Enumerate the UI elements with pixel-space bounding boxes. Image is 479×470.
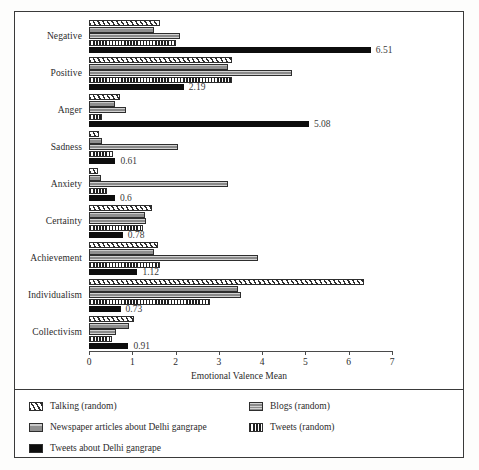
- bar-group: Collectivism0.91: [89, 316, 392, 348]
- x-axis-tick-label: 1: [130, 357, 135, 367]
- x-axis-tick: [89, 351, 90, 355]
- category-label: Individualism: [28, 290, 82, 300]
- x-axis-title: Emotional Valence Mean: [15, 371, 463, 381]
- bar-value-label: 6.51: [376, 45, 393, 55]
- category-label: Anger: [58, 105, 82, 115]
- bar-blogs: [89, 33, 180, 39]
- x-axis-tick-label: 0: [87, 357, 92, 367]
- category-label: Negative: [47, 31, 82, 41]
- bar-value-label: 0.61: [120, 156, 137, 166]
- x-axis-tick-label: 4: [260, 357, 265, 367]
- x-axis-tick: [349, 351, 350, 355]
- legend-swatch-icon: [29, 402, 43, 411]
- bar-tweets_delhi: [89, 47, 371, 53]
- bar-value-label: 0.73: [126, 304, 143, 314]
- bar-tweets_random: [89, 77, 232, 83]
- legend-panel: Talking (random)Newspaper articles about…: [15, 389, 463, 457]
- bar-newspaper: [89, 101, 115, 107]
- legend-swatch-icon: [249, 402, 263, 411]
- legend-label: Talking (random): [50, 401, 117, 411]
- bar-blogs: [89, 255, 258, 261]
- legend-label: Tweets (random): [270, 422, 335, 432]
- legend-swatch-icon: [29, 444, 43, 453]
- bar-talking: [89, 205, 152, 211]
- category-label: Anxiety: [51, 179, 82, 189]
- bar-newspaper: [89, 27, 154, 33]
- bar-value-label: 1.12: [142, 267, 159, 277]
- bar-group: Individualism0.73: [89, 279, 392, 311]
- bar-talking: [89, 242, 158, 248]
- category-label: Certainty: [46, 216, 82, 226]
- bar-newspaper: [89, 175, 101, 181]
- bar-value-label: 0.78: [128, 230, 145, 240]
- legend-item[interactable]: Tweets about Delhi gangrape: [29, 443, 161, 453]
- bar-talking: [89, 131, 99, 137]
- chart-frame: Negative6.51Positive2.19Anger5.08Sadness…: [14, 11, 464, 458]
- legend-label: Tweets about Delhi gangrape: [50, 443, 161, 453]
- bar-blogs: [89, 70, 292, 76]
- bar-value-label: 0.6: [120, 193, 132, 203]
- bar-value-label: 5.08: [314, 119, 331, 129]
- bar-blogs: [89, 107, 126, 113]
- bar-talking: [89, 94, 120, 100]
- bar-tweets_delhi: [89, 84, 184, 90]
- bar-tweets_delhi: [89, 158, 115, 164]
- legend-item[interactable]: Tweets (random): [249, 422, 335, 432]
- bar-group: Negative6.51: [89, 20, 392, 52]
- bar-newspaper: [89, 138, 102, 144]
- bar-tweets_delhi: [89, 195, 115, 201]
- bar-newspaper: [89, 64, 228, 70]
- bar-value-label: 0.91: [133, 341, 150, 351]
- category-label: Collectivism: [32, 327, 82, 337]
- bar-newspaper: [89, 249, 154, 255]
- bar-tweets_delhi: [89, 232, 123, 238]
- bar-group: Certainty0.78: [89, 205, 392, 237]
- bar-tweets_random: [89, 151, 113, 157]
- chart-figure: Negative6.51Positive2.19Anger5.08Sadness…: [0, 0, 479, 470]
- bar-talking: [89, 20, 160, 26]
- legend-item[interactable]: Newspaper articles about Delhi gangrape: [29, 422, 207, 432]
- bar-newspaper: [89, 212, 145, 218]
- bar-group: Positive2.19: [89, 57, 392, 89]
- bar-tweets_delhi: [89, 306, 121, 312]
- bar-group: Achievement1.12: [89, 242, 392, 274]
- bar-blogs: [89, 218, 146, 224]
- legend-swatch-icon: [249, 423, 263, 432]
- bar-tweets_delhi: [89, 343, 128, 349]
- x-axis-tick-label: 3: [216, 357, 221, 367]
- bar-blogs: [89, 144, 178, 150]
- legend-item[interactable]: Blogs (random): [249, 401, 330, 411]
- x-axis-tick: [132, 351, 133, 355]
- bar-blogs: [89, 181, 228, 187]
- x-axis-line: [89, 351, 393, 352]
- legend-label: Newspaper articles about Delhi gangrape: [50, 422, 207, 432]
- bar-tweets_random: [89, 188, 107, 194]
- bar-tweets_random: [89, 114, 102, 120]
- bar-newspaper: [89, 286, 238, 292]
- x-axis-tick: [176, 351, 177, 355]
- category-label: Positive: [51, 68, 82, 78]
- bar-value-label: 2.19: [189, 82, 206, 92]
- x-axis-tick: [392, 351, 393, 355]
- x-axis-tick: [262, 351, 263, 355]
- x-axis-tick-label: 5: [303, 357, 308, 367]
- category-label: Sadness: [51, 142, 82, 152]
- bar-group: Sadness0.61: [89, 131, 392, 163]
- x-axis-tick: [219, 351, 220, 355]
- bar-tweets_random: [89, 299, 210, 305]
- bar-tweets_random: [89, 40, 176, 46]
- x-axis-tick-label: 2: [173, 357, 178, 367]
- x-axis-tick: [305, 351, 306, 355]
- bar-newspaper: [89, 323, 129, 329]
- plot-area: Negative6.51Positive2.19Anger5.08Sadness…: [89, 18, 392, 351]
- x-axis-tick-label: 7: [390, 357, 395, 367]
- bar-blogs: [89, 292, 241, 298]
- bar-tweets_delhi: [89, 121, 309, 127]
- x-axis-tick-label: 6: [346, 357, 351, 367]
- bar-tweets_delhi: [89, 269, 137, 275]
- bar-blogs: [89, 329, 116, 335]
- legend-label: Blogs (random): [270, 401, 330, 411]
- category-label: Achievement: [30, 253, 82, 263]
- legend-item[interactable]: Talking (random): [29, 401, 117, 411]
- bar-group: Anger5.08: [89, 94, 392, 126]
